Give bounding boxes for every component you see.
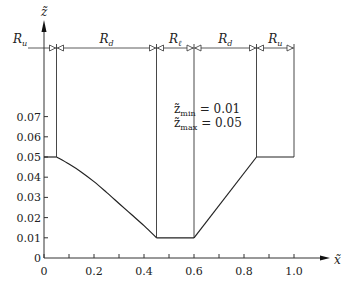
- ticks: 00.20.40.60.81.000.010.020.030.040.050.0…: [17, 111, 303, 278]
- arrow-left-icon: [195, 45, 201, 51]
- arrow-right-icon: [287, 45, 293, 51]
- x-tick-label: 0.2: [85, 265, 103, 278]
- y-tick-label: 0.04: [17, 171, 42, 184]
- y-tick-label: 0: [34, 252, 41, 265]
- region-label: Rd: [217, 32, 232, 48]
- region-label: Ru: [12, 32, 27, 48]
- axes: x̃z̃: [40, 5, 341, 267]
- region-label: Rℓ: [168, 32, 182, 48]
- profile-curve: [44, 157, 294, 238]
- x-axis-label: x̃: [334, 253, 341, 267]
- arrow-right-icon: [150, 45, 156, 51]
- region-markers: RuRdRℓRdRu: [12, 32, 294, 238]
- y-tick-label: 0.07: [17, 111, 42, 124]
- y-tick-label: 0.05: [17, 151, 42, 164]
- profile-segment-curve: [57, 157, 157, 238]
- annotations: z̃min= 0.01 z̃max= 0.05: [174, 102, 242, 132]
- x-tick-label: 0: [41, 265, 48, 278]
- arrow-left-icon: [258, 45, 264, 51]
- arrow-right-icon: [50, 45, 56, 51]
- arrow-right-icon: [187, 45, 193, 51]
- profile-segment-line: [194, 157, 257, 238]
- x-tick-label: 0.8: [235, 265, 253, 278]
- x-axis-arrowhead: [320, 256, 330, 261]
- x-tick-label: 1.0: [285, 265, 303, 278]
- arrow-right-icon: [250, 45, 256, 51]
- y-tick-label: 0.02: [17, 212, 42, 225]
- zmax-annotation: z̃max= 0.05: [174, 116, 242, 132]
- y-axis-label: z̃: [40, 5, 48, 19]
- arrow-left-icon: [58, 45, 64, 51]
- x-tick-label: 0.4: [135, 265, 153, 278]
- y-tick-label: 0.06: [17, 131, 42, 144]
- region-label: Rd: [98, 32, 113, 48]
- region-profile-diagram: x̃z̃ 00.20.40.60.81.000.010.020.030.040.…: [0, 0, 347, 293]
- region-label: Ru: [267, 32, 282, 48]
- y-axis-arrowhead: [42, 20, 47, 32]
- x-tick-label: 0.6: [185, 265, 203, 278]
- y-tick-label: 0.01: [17, 232, 42, 245]
- y-tick-label: 0.03: [17, 191, 42, 204]
- arrow-left-icon: [158, 45, 164, 51]
